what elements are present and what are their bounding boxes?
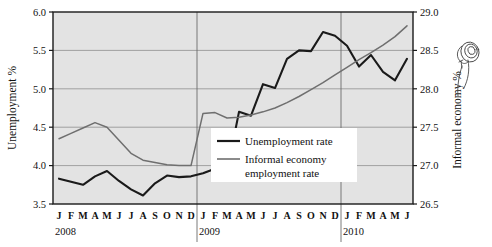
x-axis-month-label: J — [201, 210, 206, 221]
x-axis-month-labels: JFMAMJJASONDJFMAMJJASONDJFMAMJ — [57, 210, 410, 221]
x-axis-month-label: A — [283, 210, 291, 221]
x-axis-month-label: N — [319, 210, 327, 221]
right-axis-tick-label: 26.5 — [420, 199, 438, 210]
x-axis-month-label: J — [261, 210, 266, 221]
right-axis-tick-label: 27.5 — [420, 122, 438, 133]
x-axis-month-label: F — [212, 210, 218, 221]
right-axis-tick-label: 28.0 — [420, 84, 438, 95]
x-axis-month-label: D — [187, 210, 194, 221]
x-axis-month-label: F — [356, 210, 362, 221]
x-axis-year-label: 2008 — [55, 226, 76, 237]
x-axis-month-label: M — [366, 210, 376, 221]
x-axis-year-labels: 200820092010 — [55, 226, 364, 237]
x-axis-month-label: J — [405, 210, 410, 221]
x-axis-month-label: J — [57, 210, 62, 221]
left-axis-tick-label: 6.0 — [33, 7, 46, 18]
x-axis-month-label: F — [68, 210, 74, 221]
x-axis-month-label: A — [91, 210, 99, 221]
right-y-axis: 26.527.027.528.028.529.0 — [413, 7, 438, 210]
x-axis-month-label: M — [78, 210, 88, 221]
right-axis-title: Informal economy % — [451, 71, 464, 169]
chart-legend: Unemployment rate Informal economy emplo… — [211, 128, 357, 182]
x-axis-month-label: N — [175, 210, 183, 221]
x-axis-month-label: A — [139, 210, 147, 221]
left-axis-tick-label: 3.5 — [33, 199, 46, 210]
x-axis-month-label: O — [307, 210, 315, 221]
legend-label-unemployment: Unemployment rate — [245, 135, 333, 147]
x-axis-year-label: 2010 — [343, 226, 364, 237]
legend-label-informal: Informal economy — [245, 153, 327, 165]
x-axis-month-label: O — [163, 210, 171, 221]
x-axis-month-label: S — [296, 210, 302, 221]
left-axis-title: Unemployment % — [6, 66, 19, 150]
line-chart: 3.54.04.55.05.56.0 26.527.027.528.028.52… — [0, 0, 492, 247]
right-axis-tick-label: 28.5 — [420, 45, 438, 56]
legend-label-informal-line2: employment rate — [245, 167, 319, 179]
x-axis-month-label: J — [273, 210, 278, 221]
x-axis-month-label: M — [246, 210, 256, 221]
left-axis-tick-label: 4.5 — [33, 122, 46, 133]
x-axis-month-label: J — [117, 210, 122, 221]
x-axis-month-label: J — [345, 210, 350, 221]
right-axis-tick-label: 27.0 — [420, 160, 438, 171]
right-axis-tick-label: 29.0 — [420, 7, 438, 18]
left-axis-tick-label: 5.0 — [33, 84, 46, 95]
left-axis-tick-label: 4.0 — [33, 160, 46, 171]
x-axis-month-label: A — [235, 210, 243, 221]
left-y-axis: 3.54.04.55.05.56.0 — [33, 7, 53, 210]
x-axis-month-label: M — [102, 210, 112, 221]
x-axis-year-label: 2009 — [199, 226, 220, 237]
x-axis-month-label: J — [129, 210, 134, 221]
left-axis-tick-label: 5.5 — [33, 45, 46, 56]
x-axis-month-label: M — [222, 210, 232, 221]
x-axis-month-label: A — [379, 210, 387, 221]
x-axis-month-label: M — [390, 210, 400, 221]
x-axis-month-label: D — [331, 210, 338, 221]
x-axis-month-label: S — [152, 210, 158, 221]
chart-figure: 3.54.04.55.05.56.0 26.527.027.528.028.52… — [0, 0, 492, 247]
